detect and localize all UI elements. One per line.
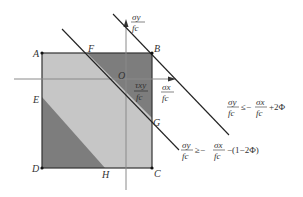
svg-text:σx: σx bbox=[162, 82, 170, 92]
svg-text:σx: σx bbox=[214, 140, 222, 150]
label-d: D bbox=[31, 163, 40, 174]
inequality-lower: σy fc ≥− σx fc −(1−2Φ) bbox=[181, 140, 259, 161]
svg-text:fc: fc bbox=[182, 151, 189, 161]
label-c: C bbox=[154, 168, 161, 179]
svg-text:fc: fc bbox=[214, 151, 221, 161]
svg-text:+2Φ: +2Φ bbox=[269, 102, 286, 112]
x-axis-label: σx fc bbox=[161, 82, 174, 103]
svg-text:fc: fc bbox=[132, 23, 139, 33]
label-o: O bbox=[118, 70, 125, 81]
svg-text:≥−: ≥− bbox=[195, 145, 205, 155]
svg-text:−(1−2Φ): −(1−2Φ) bbox=[227, 145, 259, 155]
label-f: F bbox=[87, 43, 95, 54]
svg-text:σy: σy bbox=[182, 140, 190, 150]
label-b: B bbox=[154, 43, 160, 54]
label-a: A bbox=[32, 48, 40, 59]
svg-text:τxy: τxy bbox=[135, 80, 146, 90]
y-axis-label: σy fc bbox=[131, 12, 145, 33]
svg-text:fc: fc bbox=[228, 108, 235, 118]
stress-domain-diagram: A B C D E F G H O σy fc σx fc τxy fc σy … bbox=[0, 0, 303, 197]
label-e: E bbox=[32, 94, 39, 105]
svg-text:fc: fc bbox=[136, 92, 143, 102]
svg-text:σy: σy bbox=[132, 12, 140, 22]
svg-text:σx: σx bbox=[256, 97, 264, 107]
point-a-dot bbox=[40, 51, 43, 54]
point-d-dot bbox=[40, 166, 43, 169]
label-h: H bbox=[101, 169, 110, 180]
label-g: G bbox=[153, 117, 160, 128]
svg-text:σy: σy bbox=[228, 97, 236, 107]
svg-text:≤−: ≤− bbox=[241, 102, 251, 112]
svg-text:fc: fc bbox=[162, 93, 169, 103]
inequality-upper: σy fc ≤− σx fc +2Φ bbox=[227, 97, 286, 118]
svg-text:fc: fc bbox=[256, 108, 263, 118]
